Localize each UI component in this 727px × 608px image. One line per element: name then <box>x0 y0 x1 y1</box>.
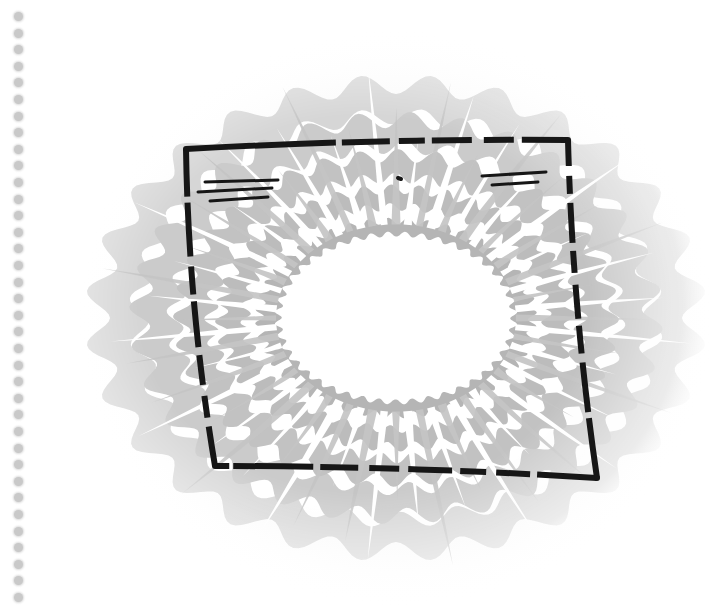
frame-corner-bottom-left <box>212 463 218 469</box>
frame-corner-top-right <box>565 137 571 143</box>
frame-corner-bottom-right <box>594 475 600 481</box>
starburst-svg <box>0 0 727 608</box>
frame-corner-top-left <box>183 146 189 152</box>
center-eye <box>284 242 508 394</box>
ink-dot <box>398 178 401 179</box>
hatch-left-1 <box>205 180 278 182</box>
artwork-canvas <box>0 0 727 608</box>
drawing-page: Abstract Starburst Drawing Scanned sketc… <box>0 0 727 608</box>
